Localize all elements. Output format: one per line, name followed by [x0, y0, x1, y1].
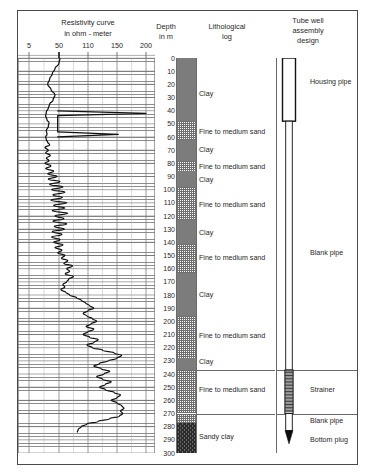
- resistivity-curve: [18, 58, 155, 453]
- litho-bed-sand: [177, 161, 196, 172]
- depth-tick-70: 70: [167, 147, 175, 154]
- depth-tick-250: 250: [163, 384, 175, 391]
- depth-tick-0: 0: [171, 55, 175, 62]
- tubewell-title-line2: assembly: [277, 27, 339, 35]
- depth-tick-240: 240: [163, 371, 175, 378]
- depth-tick-130: 130: [163, 226, 175, 233]
- litho-bed-sand: [177, 244, 196, 273]
- depth-tick-280: 280: [163, 423, 175, 430]
- depth-tick-100: 100: [163, 186, 175, 193]
- lithology-separator: [176, 370, 275, 371]
- litho-bed-clay: [177, 140, 196, 161]
- litho-bed-sandy-clay: [177, 423, 196, 453]
- depth-tick-180: 180: [163, 292, 175, 299]
- depth-tick-120: 120: [163, 213, 175, 220]
- lithology-label: Fine to medium sand: [199, 201, 265, 209]
- depth-tick-220: 220: [163, 344, 175, 351]
- depth-tick-160: 160: [163, 265, 175, 272]
- resistivity-tick-50: 50: [48, 42, 70, 50]
- depth-tick-110: 110: [164, 199, 175, 206]
- litho-bed-sand: [177, 316, 196, 358]
- depth-tick-10: 10: [167, 68, 175, 75]
- depth-tick-50: 50: [167, 120, 175, 127]
- depth-tick-140: 140: [163, 239, 175, 246]
- resistivity-tick-5: 5: [18, 42, 40, 50]
- depth-tick-230: 230: [163, 357, 175, 364]
- resistivity-tick-150: 150: [106, 42, 128, 50]
- lithology-label: Sandy clay: [199, 433, 234, 441]
- depth-tick-40: 40: [167, 107, 175, 114]
- depth-tick-90: 90: [167, 173, 175, 180]
- lithology-label: Fine to medium sand: [199, 386, 265, 394]
- litho-bed-sand: [177, 370, 196, 413]
- litho-bed-clay: [177, 273, 196, 316]
- depth-tick-290: 290: [163, 436, 175, 443]
- litho-bed-clay: [177, 358, 196, 370]
- depth-tick-300: 300: [163, 450, 175, 457]
- resistivity-title: Resistivity curve: [38, 19, 138, 27]
- depth-tick-170: 170: [163, 278, 175, 285]
- depth-tick-80: 80: [167, 160, 175, 167]
- depth-tick-150: 150: [163, 252, 175, 259]
- tubewell-title-line3: design: [277, 37, 339, 45]
- lithological-log-title-line1: Lithological: [196, 23, 258, 31]
- tubewell-title-line1: Tube well: [277, 17, 339, 25]
- lithology-label: Clay: [199, 90, 213, 98]
- depth-tick-20: 20: [167, 81, 175, 88]
- lithological-log-column: [176, 58, 197, 453]
- lithology-label: Fine to medium sand: [199, 254, 265, 262]
- lithology-label: Clay: [199, 146, 213, 154]
- lithology-label: Clay: [199, 229, 213, 237]
- depth-tick-30: 30: [167, 94, 175, 101]
- lithological-log-title-line2: log: [196, 33, 258, 41]
- lithology-label: Fine to medium sand: [199, 332, 265, 340]
- lithology-label: Clay: [199, 358, 213, 366]
- depth-tick-60: 60: [167, 134, 175, 141]
- litho-bed-sand: [177, 414, 196, 423]
- litho-bed-clay: [177, 220, 196, 244]
- lithology-label: Fine to medium sand: [199, 163, 265, 171]
- resistivity-tick-110: 110: [77, 42, 99, 50]
- depth-tick-190: 190: [163, 305, 175, 312]
- lithology-labels: ClayFine to medium sandClayFine to mediu…: [199, 58, 275, 453]
- lithology-separator: [176, 414, 275, 415]
- litho-bed-clay: [177, 171, 196, 187]
- depth-tick-260: 260: [163, 397, 175, 404]
- depth-scale: 0102030405060708090100110120130140150160…: [155, 58, 175, 453]
- depth-tick-210: 210: [163, 331, 175, 338]
- litho-bed-sand: [177, 187, 196, 220]
- well-log-figure: Resistivity curve in ohm - meter Depth i…: [0, 0, 373, 475]
- lithology-label: Fine to medium sand: [199, 128, 265, 136]
- resistivity-subtitle: in ohm - meter: [46, 30, 130, 38]
- depth-title: Depth: [146, 23, 186, 31]
- depth-tick-270: 270: [163, 410, 175, 417]
- depth-subtitle: in m: [146, 33, 186, 41]
- tubewell-assembly-drawing: [276, 58, 357, 453]
- resistivity-track: [18, 58, 155, 453]
- resistivity-tick-200: 200: [135, 42, 157, 50]
- litho-bed-sand: [177, 121, 196, 139]
- lithology-label: Clay: [199, 291, 213, 299]
- lithology-label: Clay: [199, 176, 213, 184]
- litho-bed-clay: [177, 58, 196, 121]
- depth-tick-200: 200: [163, 318, 175, 325]
